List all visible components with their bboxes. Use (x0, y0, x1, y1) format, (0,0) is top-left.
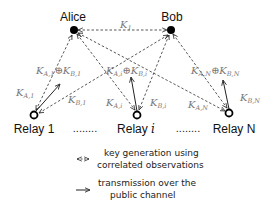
bob-node (167, 26, 175, 34)
key-xor-N: KA,N⊕KB,N (190, 65, 240, 78)
alice-label: Alice (60, 10, 86, 24)
relayN-label: Relay N (213, 122, 256, 136)
svg-text:KA,i⊕KB,i: KA,i⊕KB,i (105, 65, 147, 78)
svg-text:KA,N⊕KB,N: KA,N⊕KB,N (190, 65, 240, 78)
relayN-node (226, 110, 233, 117)
legend-solid-line1: transmission over the (98, 178, 197, 188)
key-kaN: KA,N (187, 99, 208, 112)
relayi-label: Relay i (117, 122, 155, 136)
key-xor-1: KA,1⊕KB,1 (35, 65, 81, 78)
relayN-broadcast (223, 80, 229, 109)
key-kbi: KB,i (149, 97, 166, 110)
key-kai: KA,i (105, 97, 122, 110)
relayi-node (134, 112, 141, 119)
ellipsis-2: ........ (176, 122, 200, 134)
legend-dashed-line1: key generation using (104, 148, 199, 158)
key-kbN: KB,N (239, 92, 260, 105)
legend: key generation using correlated observat… (76, 148, 204, 200)
relay-key-diagram: Alice Bob Relay 1 Relay i Relay N ......… (0, 0, 276, 210)
key-xor-i: KA,i⊕KB,i (105, 65, 147, 78)
key-ka1: KA,1 (15, 87, 34, 100)
svg-text:KA,1⊕KB,1: KA,1⊕KB,1 (35, 65, 81, 78)
legend-dashed-line2: correlated observations (97, 160, 204, 170)
key-kb1: KB,1 (67, 94, 86, 107)
relay1-broadcast (36, 84, 60, 111)
relay1-node (31, 112, 38, 119)
alice-node (70, 26, 78, 34)
relay1-label: Relay 1 (14, 122, 55, 136)
legend-solid-line2: public channel (110, 190, 176, 200)
bob-label: Bob (161, 10, 183, 24)
ellipsis-1: ........ (73, 122, 97, 134)
